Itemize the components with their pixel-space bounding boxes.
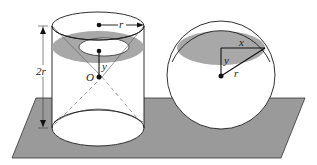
sphere-x-label: x: [238, 36, 244, 48]
center-label-O: O: [86, 71, 94, 83]
sphere-r-label: r: [234, 67, 239, 79]
sphere-y-label: y: [223, 54, 229, 66]
cavalieri-diagram: r y O 2r x y r: [0, 0, 317, 165]
sphere-center-point: [219, 74, 224, 79]
center-point-O: [97, 75, 102, 80]
height-label-2r: 2r: [36, 65, 47, 77]
cylinder-radius-label: r: [119, 18, 124, 30]
sphere: x y r: [167, 21, 275, 129]
cylinder-y-label: y: [101, 60, 107, 72]
